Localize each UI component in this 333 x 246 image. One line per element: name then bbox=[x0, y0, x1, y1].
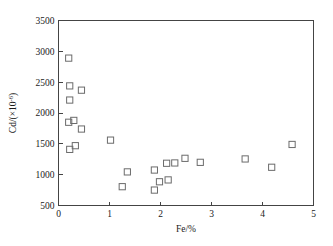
y-axis-title: Cd/(×10-6) bbox=[7, 93, 19, 133]
y-tick-label: 1500 bbox=[36, 139, 55, 149]
x-tick-label: 5 bbox=[311, 209, 316, 219]
data-point bbox=[67, 83, 73, 89]
x-tick-label: 1 bbox=[107, 209, 112, 219]
data-point bbox=[182, 155, 188, 161]
data-point bbox=[66, 55, 72, 61]
data-point bbox=[165, 177, 171, 183]
x-axis-title: Fe/% bbox=[176, 224, 196, 234]
x-tick-label: 3 bbox=[209, 209, 214, 219]
data-point bbox=[269, 164, 275, 170]
y-axis-title-close: ) bbox=[8, 93, 19, 96]
data-point bbox=[164, 160, 170, 166]
data-point bbox=[67, 97, 73, 103]
y-tick-label: 2000 bbox=[36, 108, 55, 118]
data-point bbox=[78, 87, 84, 93]
data-point bbox=[151, 167, 157, 173]
x-tick-label: 4 bbox=[260, 209, 265, 219]
x-tick-label: 0 bbox=[56, 209, 61, 219]
y-tick-label: 2500 bbox=[36, 78, 55, 88]
data-point bbox=[156, 179, 162, 185]
scatter-chart-figure: 500100015002000250030003500012345Fe/%Cd/… bbox=[0, 0, 333, 246]
data-point bbox=[172, 160, 178, 166]
x-tick-label: 2 bbox=[158, 209, 163, 219]
y-tick-label: 3000 bbox=[36, 47, 55, 57]
x-axis: 012345 bbox=[56, 202, 316, 220]
data-point bbox=[151, 187, 157, 193]
data-point bbox=[124, 169, 130, 175]
y-tick-label: 500 bbox=[40, 201, 55, 211]
y-axis-title-base: Cd/(×10 bbox=[8, 101, 19, 133]
data-point bbox=[242, 156, 248, 162]
data-point bbox=[289, 141, 295, 147]
chart-canvas: 500100015002000250030003500012345Fe/%Cd/… bbox=[0, 0, 333, 246]
data-series bbox=[66, 55, 296, 193]
plot-frame bbox=[59, 21, 314, 206]
y-tick-label: 3500 bbox=[36, 16, 55, 26]
data-point bbox=[78, 126, 84, 132]
data-point bbox=[119, 184, 125, 190]
y-tick-label: 1000 bbox=[36, 170, 55, 180]
data-point bbox=[107, 137, 113, 143]
data-point bbox=[197, 159, 203, 165]
